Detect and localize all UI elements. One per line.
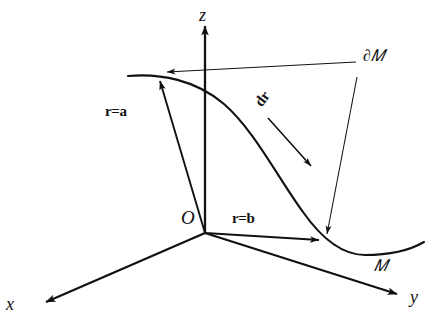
vector-label-r-equals-a: r=a xyxy=(105,104,127,119)
boundary-leader-diagonal xyxy=(327,77,357,234)
origin-label: O xyxy=(181,208,195,227)
axis-line-y xyxy=(205,233,397,294)
boundary-leader-horizontal xyxy=(167,62,356,72)
boundary-label-partial-m: ∂𝑀 xyxy=(363,48,385,64)
diagram-canvas: z x y O r=a r=b dr ∂𝑀 𝑀 xyxy=(0,0,439,330)
axis-label-y: y xyxy=(410,288,418,306)
axis-label-x: x xyxy=(6,295,14,313)
manifold-label-m: 𝑀 xyxy=(374,258,388,274)
vector-label-r-equals-b: r=b xyxy=(232,211,255,226)
vector-dr xyxy=(268,118,311,166)
axis-label-z: z xyxy=(199,6,206,24)
manifold-curve xyxy=(128,75,424,255)
axis-line-x xyxy=(46,233,205,302)
